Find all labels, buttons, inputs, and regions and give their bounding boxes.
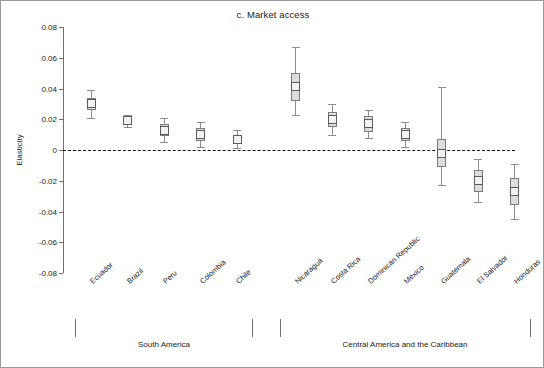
category-label: Honduras [512,257,542,285]
y-tick: -0.08 [63,273,67,274]
y-tick-label: 0 [53,146,57,155]
whisker-cap-upper [365,110,373,111]
y-tick-label: 0.02 [41,115,57,124]
whisker-cap-lower [365,138,373,139]
y-tick-label: -0.02 [39,176,57,185]
estimate-marker [196,130,205,139]
whisker-cap-lower [233,148,241,149]
estimate-marker [123,116,132,125]
whisker-cap-lower [474,202,482,203]
group-bracket [280,319,531,337]
estimate-marker [291,82,300,91]
whisker-cap-upper [438,87,446,88]
group-label: South America [75,340,253,349]
estimate-marker [233,135,242,144]
whisker-cap-upper [160,118,168,119]
whisker-cap-upper [87,90,95,91]
whisker-line [441,87,442,185]
group-label: Central America and the Caribbean [280,340,531,349]
whisker-cap-lower [197,147,205,148]
whisker-cap-lower [511,219,519,220]
data-series-layer [63,27,515,273]
estimate-marker [87,99,96,108]
plot-area: Elasticity 0.080.060.040.020-0.02-0.04-0… [63,27,515,273]
whisker-cap-lower [401,147,409,148]
y-axis-label: Elasticity [15,134,24,166]
chart-title: c. Market access [1,9,544,20]
estimate-marker [364,119,373,128]
y-tick-mark [59,273,63,274]
whisker-cap-lower [328,135,336,136]
whisker-cap-lower [124,127,132,128]
estimate-marker [401,130,410,139]
group-bracket [75,319,253,337]
y-tick-label: 0.08 [41,23,57,32]
whisker-cap-upper [292,47,300,48]
y-tick-label: 0.04 [41,84,57,93]
estimate-marker [474,176,483,185]
whisker-cap-upper [328,104,336,105]
whisker-cap-lower [87,118,95,119]
y-tick-label: -0.08 [39,269,57,278]
whisker-cap-upper [197,122,205,123]
y-tick-label: -0.06 [39,238,57,247]
whisker-cap-lower [292,115,300,116]
estimate-marker [160,126,169,135]
estimate-marker [437,149,446,158]
estimate-marker [328,115,337,124]
whisker-cap-upper [474,159,482,160]
whisker-cap-upper [511,164,519,165]
whisker-cap-upper [401,122,409,123]
estimate-marker [510,187,519,196]
whisker-cap-lower [160,142,168,143]
chart-figure: c. Market access Elasticity 0.080.060.04… [0,0,544,368]
whisker-cap-lower [438,185,446,186]
y-tick-label: 0.06 [41,53,57,62]
y-tick-label: -0.04 [39,207,57,216]
whisker-cap-upper [233,130,241,131]
